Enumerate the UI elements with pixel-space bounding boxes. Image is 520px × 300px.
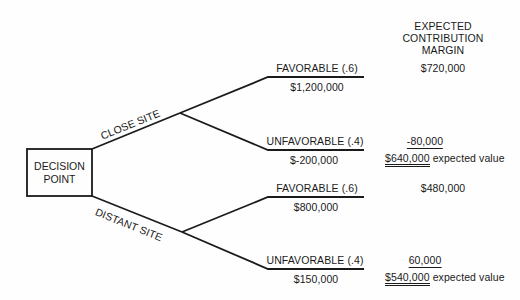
distant-favorable-label: FAVORABLE (.6) xyxy=(276,182,358,194)
distant-expected-value: $540,000 xyxy=(385,271,430,286)
distant-unfavorable-ecm: 60,000 xyxy=(409,254,442,266)
distant-expected-value-suffix: expected value xyxy=(433,271,505,283)
distant-unfavorable-payoff: $150,000 xyxy=(294,273,339,285)
distant-unfavorable-label: UNFAVORABLE (.4) xyxy=(266,254,363,266)
header-line-1: EXPECTED xyxy=(402,20,483,32)
close-favorable-label: FAVORABLE (.6) xyxy=(276,62,358,74)
close-expected-value-row: $640,000 expected value xyxy=(385,152,505,164)
close-favorable-ecm: $720,000 xyxy=(421,62,466,74)
column-header: EXPECTED CONTRIBUTION MARGIN xyxy=(402,20,483,56)
distant-favorable-ecm: $480,000 xyxy=(421,182,466,194)
close-unfavorable-ecm: -80,000 xyxy=(407,135,443,147)
close-favorable-payoff: $1,200,000 xyxy=(290,81,344,93)
close-expected-value-suffix: expected value xyxy=(433,152,505,164)
header-line-3: MARGIN xyxy=(402,44,483,56)
decision-tree-diagram: EXPECTED CONTRIBUTION MARGIN DECISION PO… xyxy=(0,0,520,300)
distant-expected-value-row: $540,000 expected value xyxy=(385,271,505,283)
decision-point-label: DECISION POINT xyxy=(27,149,92,196)
distant-unfavorable-ecm-value: 60,000 xyxy=(409,254,442,268)
distant-favorable-payoff: $800,000 xyxy=(294,201,339,213)
decision-label-line-2: POINT xyxy=(43,173,75,186)
close-unfavorable-payoff: $-200,000 xyxy=(290,154,338,166)
decision-label-line-1: DECISION xyxy=(34,160,85,173)
close-unfavorable-ecm-value: -80,000 xyxy=(407,135,443,149)
header-line-2: CONTRIBUTION xyxy=(402,32,483,44)
close-unfavorable-label: UNFAVORABLE (.4) xyxy=(266,135,363,147)
close-expected-value: $640,000 xyxy=(385,152,430,167)
